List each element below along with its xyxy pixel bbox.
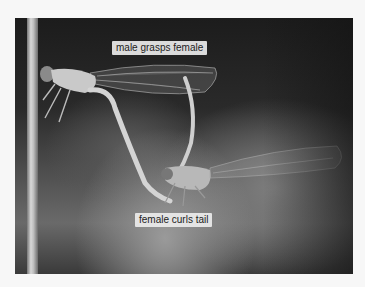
label-female-curls-tail: female curls tail xyxy=(135,213,212,227)
male-wings xyxy=(90,65,217,94)
damselflies-illustration xyxy=(15,18,353,274)
male-abdomen xyxy=(90,90,170,201)
label-male-grasps-female: male grasps female xyxy=(112,41,207,55)
female-head xyxy=(161,168,173,180)
female-thorax xyxy=(165,166,211,190)
damselfly-photo xyxy=(15,18,353,274)
female-wings xyxy=(210,146,342,178)
